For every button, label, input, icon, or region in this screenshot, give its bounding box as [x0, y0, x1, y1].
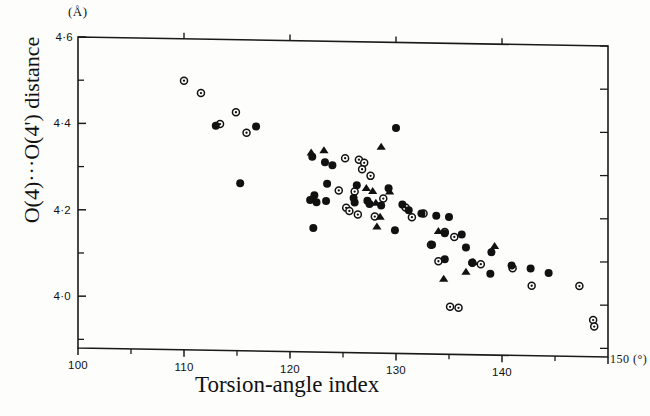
data-point-filled-triangle: [461, 268, 470, 275]
y-axis-unit-label: (Å): [68, 4, 88, 20]
data-point-filled-triangle: [307, 149, 316, 156]
scatter-plot: 1001101201301404·04·24·44·6 (Å) 150 (°) …: [0, 0, 650, 416]
data-point-filled-circle: [309, 224, 317, 232]
data-point-filled-circle: [428, 241, 436, 249]
data-point-filled-circle: [458, 230, 466, 238]
y-axis-tick-label: 4·6: [55, 31, 73, 43]
plot-frame: [78, 37, 608, 357]
data-point-filled-circle: [212, 122, 220, 130]
data-point-filled-triangle: [319, 146, 328, 153]
chart-canvas: 1001101201301404·04·24·44·6: [0, 0, 650, 416]
data-point-filled-circle: [405, 206, 413, 214]
data-point-filled-circle: [508, 262, 516, 270]
data-point-layer: [181, 77, 598, 330]
data-point-filled-circle: [323, 180, 331, 188]
data-point-open-circle-center: [457, 307, 459, 309]
data-point-open-circle-center: [358, 159, 360, 161]
data-point-open-circle-center: [578, 285, 580, 287]
data-point-filled-circle: [392, 124, 400, 132]
data-point-filled-circle: [527, 264, 535, 272]
data-point-open-circle-center: [183, 80, 185, 82]
data-point-filled-circle: [417, 209, 425, 217]
data-point-open-circle-center: [245, 132, 247, 134]
y-axis-tick-label: 4·4: [53, 117, 71, 129]
data-point-filled-circle: [391, 226, 399, 234]
data-point-filled-circle: [351, 198, 359, 206]
x-axis-max-unit-label: 150 (°): [610, 352, 647, 367]
data-point-open-circle-center: [200, 92, 202, 94]
data-point-filled-triangle: [372, 223, 381, 230]
data-point-filled-circle: [328, 161, 336, 169]
data-point-filled-circle: [353, 181, 361, 189]
data-point-open-circle-center: [592, 319, 594, 321]
data-point-filled-circle: [366, 200, 374, 208]
data-point-open-circle-center: [369, 175, 371, 177]
data-point-open-circle-center: [338, 189, 340, 191]
series-open-circle: [181, 77, 598, 330]
data-point-filled-circle: [445, 213, 453, 221]
data-point-open-circle-center: [593, 325, 595, 327]
data-point-open-circle-center: [449, 306, 451, 308]
figure-panel: 1001101201301404·04·24·44·6 (Å) 150 (°) …: [0, 0, 650, 416]
data-point-filled-circle: [313, 198, 321, 206]
data-point-filled-circle: [441, 255, 449, 263]
x-axis-tick-label: 140: [492, 366, 512, 378]
data-point-open-circle-center: [235, 111, 237, 113]
data-point-filled-circle: [252, 122, 260, 130]
data-point-filled-triangle: [362, 184, 371, 191]
data-point-filled-circle: [432, 212, 440, 220]
data-point-filled-circle: [236, 179, 244, 187]
data-point-filled-triangle: [439, 275, 448, 282]
data-point-filled-triangle: [490, 242, 499, 249]
data-point-open-circle-center: [363, 162, 365, 164]
data-point-open-circle-center: [411, 216, 413, 218]
x-axis-tick-label: 100: [68, 359, 88, 371]
data-point-open-circle-center: [344, 157, 346, 159]
data-point-filled-triangle: [377, 143, 386, 150]
data-point-filled-circle: [545, 269, 553, 277]
data-point-open-circle-center: [382, 197, 384, 199]
data-point-filled-circle: [398, 200, 406, 208]
data-point-open-circle-center: [531, 285, 533, 287]
x-axis-title: Torsion-angle index: [195, 372, 379, 398]
y-axis-title: O(4)···O(4') distance: [19, 15, 45, 245]
x-axis-tick-label: 110: [174, 361, 193, 373]
data-point-filled-circle: [322, 197, 330, 205]
y-axis-tick-label: 4·2: [53, 204, 71, 216]
data-point-filled-circle: [321, 158, 329, 166]
y-axis-tick-label: 4·0: [53, 290, 71, 302]
data-point-filled-circle: [487, 248, 495, 256]
data-point-open-circle-center: [437, 260, 439, 262]
data-point-filled-circle: [462, 243, 470, 251]
data-point-open-circle-center: [348, 210, 350, 212]
x-axis-tick-label: 130: [386, 364, 406, 376]
data-point-open-circle-center: [354, 190, 356, 192]
data-point-filled-circle: [486, 270, 494, 278]
data-point-open-circle-center: [361, 168, 363, 170]
data-point-open-circle-center: [453, 236, 455, 238]
data-point-open-circle-center: [480, 263, 482, 265]
data-point-open-circle-center: [357, 213, 359, 215]
data-point-open-circle-center: [374, 215, 376, 217]
